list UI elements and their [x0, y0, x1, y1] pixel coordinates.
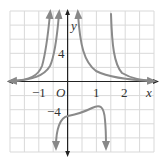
x-tick-label: −1 — [32, 85, 46, 100]
x-axis-label: x — [145, 85, 152, 100]
y-tick-label: 4 — [58, 46, 65, 61]
branch-bottom — [56, 106, 106, 146]
x-tick-label: 2 — [121, 85, 128, 100]
x-tick-label: 1 — [93, 85, 100, 100]
branch-far-right — [111, 14, 152, 81]
axes — [10, 12, 156, 154]
origin-label: O — [56, 85, 66, 100]
y-axis-label: y — [69, 18, 77, 33]
branch-left-outer — [12, 14, 50, 81]
graph: −1 O 1 2 x y 4 −4 — [0, 0, 166, 163]
y-tick-label: −4 — [47, 104, 61, 119]
branch-right-of-axis — [78, 14, 152, 81]
branch-left-inner — [12, 14, 59, 81]
